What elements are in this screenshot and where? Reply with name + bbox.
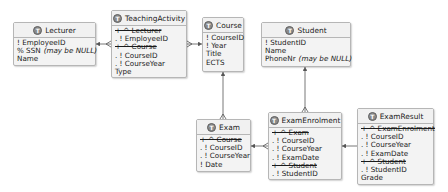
table-icon: T	[207, 123, 216, 132]
attribute-row: ! Date	[200, 161, 248, 169]
entity-header: T Lecturer	[14, 23, 95, 38]
entity-title: ExamEnrolment	[282, 116, 341, 125]
table-icon: T	[33, 26, 42, 35]
table-icon: T	[204, 21, 213, 30]
entity-title: Exam	[219, 123, 240, 132]
entity-exam-enrolment[interactable]: T ExamEnrolment + ^ Exam . ! CourseID . …	[268, 112, 342, 180]
entity-header: T Course	[203, 18, 243, 33]
attribute-row: . ! StudentID	[272, 170, 339, 178]
attribute-row: Name	[17, 55, 93, 63]
entity-title: ExamResult	[380, 112, 424, 121]
attribute-row: Type	[115, 68, 184, 76]
attribute-row: PhoneNr(may be NULL)	[265, 55, 348, 63]
entity-header: T TeachingActivity	[112, 11, 186, 26]
entity-exam-result[interactable]: T ExamResult + ^ ExamEnrolment . ! Cours…	[357, 108, 434, 185]
entity-header: T ExamResult	[358, 109, 433, 124]
entity-teaching-activity[interactable]: T TeachingActivity + ^ Lecturer . ! Empl…	[111, 10, 187, 78]
entity-exam[interactable]: T Exam + ^ Course . ! CourseID . ! Cours…	[196, 119, 251, 172]
entity-title: Course	[216, 21, 242, 30]
attribute-row: Grade	[361, 174, 431, 182]
entity-title: TeachingActivity	[125, 14, 185, 23]
nullable-note: (may be NULL)	[299, 54, 352, 63]
entity-course[interactable]: T Course ! CourseID ! Year Title ECTS	[202, 17, 244, 72]
entity-header: T Exam	[197, 120, 250, 135]
table-icon: T	[113, 14, 122, 23]
entity-lecturer[interactable]: T Lecturer ! EmployeeID % SSN(may be NUL…	[13, 22, 96, 66]
entity-header: T ExamEnrolment	[269, 113, 341, 128]
entity-header: T Student	[262, 23, 350, 38]
entity-title: Student	[297, 26, 326, 35]
table-icon: T	[285, 26, 294, 35]
nullable-note: (may be NULL)	[44, 46, 97, 55]
attribute-row: ECTS	[206, 59, 241, 67]
entity-student[interactable]: T Student ! StudentID Name PhoneNr(may b…	[261, 22, 351, 67]
table-icon: T	[270, 116, 279, 125]
table-icon: T	[368, 112, 377, 121]
attribute-name: PhoneNr	[265, 54, 296, 63]
entity-title: Lecturer	[45, 26, 76, 35]
